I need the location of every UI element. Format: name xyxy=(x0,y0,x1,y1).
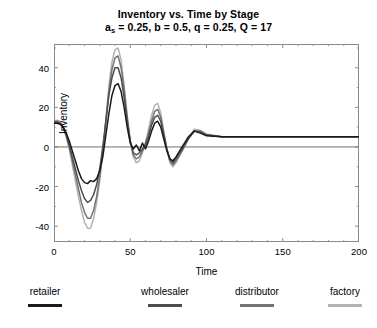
chart-subtitle-rest: = 0.25, b = 0.5, q = 0.25, Q = 17 xyxy=(115,21,272,33)
legend-entry-retailer[interactable]: retailer xyxy=(0,286,90,307)
legend-swatch xyxy=(148,304,182,307)
chart-subtitle: as = 0.25, b = 0.5, q = 0.25, Q = 17 xyxy=(0,21,377,34)
legend-label: retailer xyxy=(0,286,90,297)
legend-label: distributor xyxy=(212,286,302,297)
y-tick-label: 20 xyxy=(38,102,49,113)
legend-entry-wholesaler[interactable]: wholesaler xyxy=(120,286,210,307)
x-tick-label: 200 xyxy=(351,246,367,257)
plot-canvas xyxy=(54,44,359,242)
y-tick-label: 0 xyxy=(44,141,49,152)
chart-subtitle-subscript: s xyxy=(111,26,115,35)
legend-entry-factory[interactable]: factory xyxy=(300,286,377,307)
x-tick-label: 0 xyxy=(51,246,56,257)
x-tick-label: 100 xyxy=(199,246,215,257)
chart-title: Inventory vs. Time by Stage xyxy=(0,8,377,21)
y-tick-label: 40 xyxy=(38,62,49,73)
chart-legend: retailerwholesalerdistributorfactory xyxy=(0,286,377,322)
y-tick-label: -20 xyxy=(35,181,49,192)
y-tick-label: -40 xyxy=(35,221,49,232)
chart-title-block: Inventory vs. Time by Stage as = 0.25, b… xyxy=(0,8,377,35)
legend-label: wholesaler xyxy=(120,286,210,297)
legend-entry-distributor[interactable]: distributor xyxy=(212,286,302,307)
chart-subtitle-prefix: a xyxy=(105,21,111,33)
x-axis-title: Time xyxy=(54,266,359,277)
chart-figure: Inventory vs. Time by Stage as = 0.25, b… xyxy=(0,0,377,328)
y-axis-title: Inventory xyxy=(58,69,69,159)
legend-swatch xyxy=(28,304,62,307)
x-tick-label: 50 xyxy=(125,246,136,257)
legend-label: factory xyxy=(300,286,377,297)
plot-frame xyxy=(55,45,359,242)
plot-area: 40200-20-40 050100150200 Inventory Time xyxy=(54,44,359,242)
x-tick-label: 150 xyxy=(275,246,291,257)
legend-swatch xyxy=(240,304,274,307)
legend-swatch xyxy=(328,304,362,307)
